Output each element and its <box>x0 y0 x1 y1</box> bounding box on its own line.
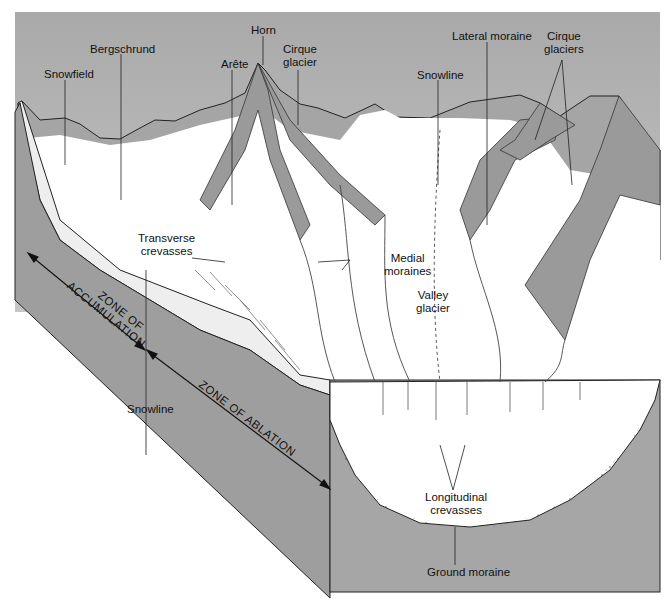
label-snowline-top: Snowline <box>417 69 464 82</box>
label-valley-glacier: Valley glacier <box>416 289 450 315</box>
label-longitudinal-crevasses: Longitudinal crevasses <box>425 491 487 517</box>
label-snowline-side: Snowline <box>127 403 174 416</box>
label-horn: Horn <box>251 24 276 37</box>
label-medial-moraines: Medial moraines <box>384 252 431 278</box>
label-cirque-glacier: Cirque glacier <box>283 43 317 69</box>
label-transverse-crevasses: Transverse crevasses <box>138 232 195 258</box>
label-lateral-moraine: Lateral moraine <box>452 30 532 43</box>
label-bergschrund: Bergschrund <box>90 43 155 56</box>
label-ground-moraine: Ground moraine <box>427 566 510 579</box>
label-snowfield: Snowfield <box>44 68 94 81</box>
label-cirque-glaciers: Cirque glaciers <box>544 30 584 56</box>
label-arete: Arête <box>221 58 249 71</box>
